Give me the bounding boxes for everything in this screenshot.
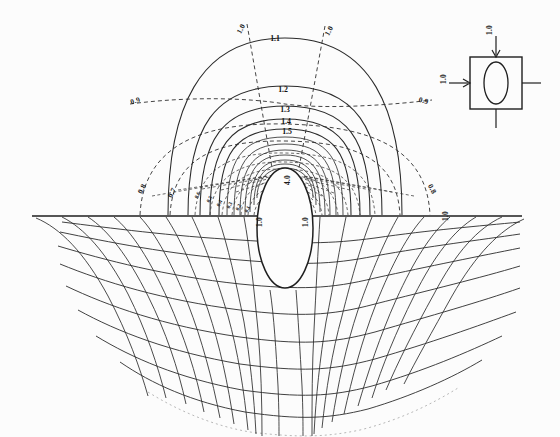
label-1-4: 1.4 <box>281 117 291 126</box>
label-diagonal-left-1-0: 1.0 <box>235 22 248 35</box>
stress-field-diagram: 1.1 1.2 1.3 1.4 1.5 4.0 1.0 1.0 1.0 1.0 … <box>0 0 560 437</box>
inset-top-load-label: 1.0 <box>485 25 494 35</box>
label-diagonal-right-1-0: 1.0 <box>323 24 336 37</box>
label-right-0-8: 0.8 <box>426 182 439 195</box>
label-right-0-9: 0.9 <box>418 95 430 106</box>
inset-left-arrow-icon <box>449 79 470 87</box>
label-ellipse-right-1-0: 1.0 <box>301 217 310 227</box>
inset-left-load-label: 1.0 <box>439 74 448 84</box>
label-left-0-7: 0.7 <box>166 186 179 199</box>
label-left-0-4: 0.4 <box>215 198 224 207</box>
label-ellipse-left-1-0: 1.0 <box>255 217 264 227</box>
label-1-5: 1.5 <box>282 127 292 136</box>
label-waterline-right-1-0: 1.0 <box>441 211 450 221</box>
elliptical-inclusion <box>257 168 313 288</box>
label-crown-4-0: 4.0 <box>283 175 292 185</box>
inset-ellipse <box>484 62 508 104</box>
label-left-0-2: 0.2 <box>234 202 243 211</box>
label-left-0-3: 0.3 <box>225 200 234 209</box>
label-1-1: 1.1 <box>270 34 280 43</box>
label-1-2: 1.2 <box>278 85 288 94</box>
figure-canvas: 1.1 1.2 1.3 1.4 1.5 4.0 1.0 1.0 1.0 1.0 … <box>0 0 560 437</box>
label-1-3: 1.3 <box>280 105 290 114</box>
contour-labels: 1.1 1.2 1.3 1.4 1.5 <box>270 34 292 136</box>
inset-top-arrow-icon <box>492 36 500 57</box>
label-left-0-9: 0.9 <box>129 95 141 107</box>
inset-loading-diagram: 1.0 1.0 <box>439 25 541 128</box>
inset-boundary-square <box>470 57 522 109</box>
